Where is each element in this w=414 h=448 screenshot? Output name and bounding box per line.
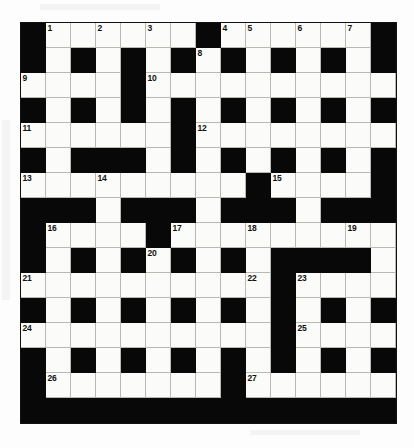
grid-letter-cell[interactable]	[246, 48, 271, 73]
grid-letter-cell[interactable]	[221, 223, 246, 248]
grid-letter-cell[interactable]	[96, 198, 121, 223]
grid-letter-cell[interactable]	[121, 373, 146, 398]
grid-letter-cell[interactable]	[296, 298, 321, 323]
grid-letter-cell[interactable]	[71, 373, 96, 398]
grid-letter-cell[interactable]	[346, 173, 371, 198]
grid-letter-cell[interactable]	[346, 48, 371, 73]
grid-letter-cell[interactable]	[271, 373, 296, 398]
grid-letter-cell[interactable]	[246, 123, 271, 148]
grid-letter-cell[interactable]	[221, 123, 246, 148]
grid-letter-cell[interactable]	[46, 148, 71, 173]
grid-letter-cell[interactable]: 3	[146, 23, 171, 48]
grid-letter-cell[interactable]: 10	[146, 73, 171, 98]
grid-letter-cell[interactable]	[321, 373, 346, 398]
grid-letter-cell[interactable]	[71, 173, 96, 198]
grid-letter-cell[interactable]	[46, 298, 71, 323]
grid-letter-cell[interactable]	[96, 73, 121, 98]
grid-letter-cell[interactable]: 17	[171, 223, 196, 248]
grid-letter-cell[interactable]	[96, 98, 121, 123]
grid-letter-cell[interactable]	[96, 298, 121, 323]
grid-letter-cell[interactable]	[371, 223, 396, 248]
grid-letter-cell[interactable]	[171, 373, 196, 398]
grid-letter-cell[interactable]	[196, 373, 221, 398]
grid-letter-cell[interactable]	[171, 173, 196, 198]
grid-letter-cell[interactable]: 26	[46, 373, 71, 398]
grid-letter-cell[interactable]	[171, 323, 196, 348]
grid-letter-cell[interactable]	[346, 373, 371, 398]
grid-letter-cell[interactable]	[346, 298, 371, 323]
grid-letter-cell[interactable]	[96, 123, 121, 148]
grid-letter-cell[interactable]: 12	[196, 123, 221, 148]
grid-letter-cell[interactable]	[96, 348, 121, 373]
grid-letter-cell[interactable]: 5	[246, 23, 271, 48]
grid-letter-cell[interactable]	[246, 323, 271, 348]
grid-letter-cell[interactable]	[346, 73, 371, 98]
grid-letter-cell[interactable]	[46, 348, 71, 373]
grid-letter-cell[interactable]	[346, 123, 371, 148]
grid-letter-cell[interactable]	[96, 223, 121, 248]
grid-letter-cell[interactable]	[146, 323, 171, 348]
grid-letter-cell[interactable]	[246, 98, 271, 123]
grid-letter-cell[interactable]	[296, 73, 321, 98]
grid-letter-cell[interactable]: 25	[296, 323, 321, 348]
grid-letter-cell[interactable]	[296, 98, 321, 123]
grid-letter-cell[interactable]	[246, 348, 271, 373]
grid-letter-cell[interactable]	[171, 23, 196, 48]
grid-letter-cell[interactable]	[71, 273, 96, 298]
grid-letter-cell[interactable]	[321, 173, 346, 198]
grid-letter-cell[interactable]	[371, 373, 396, 398]
grid-letter-cell[interactable]	[371, 123, 396, 148]
grid-letter-cell[interactable]	[171, 273, 196, 298]
grid-letter-cell[interactable]	[96, 373, 121, 398]
grid-letter-cell[interactable]	[321, 273, 346, 298]
grid-letter-cell[interactable]: 15	[271, 173, 296, 198]
grid-letter-cell[interactable]	[71, 23, 96, 48]
grid-letter-cell[interactable]	[321, 23, 346, 48]
grid-letter-cell[interactable]	[46, 248, 71, 273]
grid-letter-cell[interactable]	[71, 73, 96, 98]
grid-letter-cell[interactable]	[371, 73, 396, 98]
grid-letter-cell[interactable]: 7	[346, 23, 371, 48]
grid-letter-cell[interactable]	[371, 323, 396, 348]
grid-letter-cell[interactable]	[221, 273, 246, 298]
grid-letter-cell[interactable]	[371, 248, 396, 273]
grid-letter-cell[interactable]	[46, 323, 71, 348]
grid-letter-cell[interactable]	[46, 73, 71, 98]
grid-letter-cell[interactable]	[146, 98, 171, 123]
grid-letter-cell[interactable]: 2	[96, 23, 121, 48]
grid-letter-cell[interactable]	[96, 323, 121, 348]
grid-letter-cell[interactable]	[196, 98, 221, 123]
grid-letter-cell[interactable]	[96, 273, 121, 298]
grid-letter-cell[interactable]	[296, 148, 321, 173]
grid-letter-cell[interactable]	[96, 48, 121, 73]
grid-letter-cell[interactable]	[196, 298, 221, 323]
grid-letter-cell[interactable]	[221, 73, 246, 98]
grid-letter-cell[interactable]	[346, 148, 371, 173]
grid-letter-cell[interactable]	[71, 223, 96, 248]
grid-letter-cell[interactable]: 9	[21, 73, 46, 98]
grid-letter-cell[interactable]	[321, 323, 346, 348]
grid-letter-cell[interactable]	[146, 273, 171, 298]
grid-letter-cell[interactable]	[71, 323, 96, 348]
grid-letter-cell[interactable]	[296, 123, 321, 148]
grid-letter-cell[interactable]	[46, 273, 71, 298]
grid-letter-cell[interactable]: 14	[96, 173, 121, 198]
grid-letter-cell[interactable]	[246, 73, 271, 98]
grid-letter-cell[interactable]	[296, 223, 321, 248]
grid-letter-cell[interactable]	[246, 298, 271, 323]
grid-letter-cell[interactable]	[296, 198, 321, 223]
grid-letter-cell[interactable]: 16	[46, 223, 71, 248]
grid-letter-cell[interactable]	[121, 173, 146, 198]
grid-letter-cell[interactable]: 24	[21, 323, 46, 348]
grid-letter-cell[interactable]: 6	[296, 23, 321, 48]
grid-letter-cell[interactable]: 18	[246, 223, 271, 248]
grid-letter-cell[interactable]: 19	[346, 223, 371, 248]
grid-letter-cell[interactable]	[46, 173, 71, 198]
grid-letter-cell[interactable]: 8	[196, 48, 221, 73]
grid-letter-cell[interactable]	[271, 23, 296, 48]
grid-letter-cell[interactable]: 22	[246, 273, 271, 298]
grid-letter-cell[interactable]	[196, 148, 221, 173]
grid-letter-cell[interactable]	[271, 123, 296, 148]
grid-letter-cell[interactable]	[121, 223, 146, 248]
grid-letter-cell[interactable]	[146, 48, 171, 73]
